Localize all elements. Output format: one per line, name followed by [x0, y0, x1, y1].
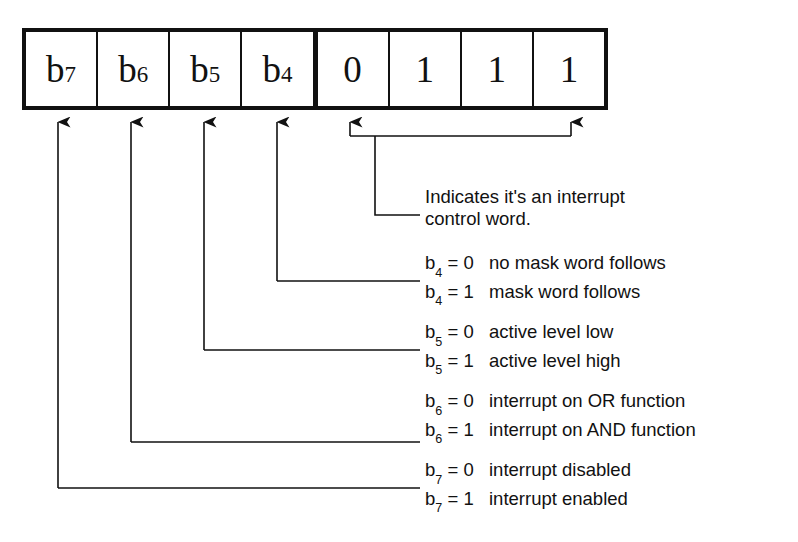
annotation-key: b7 = 0: [425, 459, 489, 488]
annotation-key: b5 = 1: [425, 350, 489, 379]
leader-identifier-stem: [375, 136, 420, 215]
bit-cell-b0: 1: [534, 32, 604, 106]
annotation-line: b4 = 0 no mask word follows: [425, 252, 666, 281]
bit-cell-b1: 1: [462, 32, 534, 106]
annotation-line: b7 = 1 interrupt enabled: [425, 488, 631, 517]
bit-cell-label: b: [190, 51, 209, 88]
annotation-desc: interrupt on AND function: [489, 419, 696, 448]
annotation-line: b6 = 1 interrupt on AND function: [425, 419, 696, 448]
bit-cell-subscript: 5: [209, 64, 220, 87]
bit-cell-b2: 1: [390, 32, 462, 106]
bit-cell-subscript: 4: [281, 64, 292, 87]
bit-cell-label: 0: [343, 51, 362, 88]
identifier-note: Indicates it's an interrupt control word…: [425, 186, 725, 230]
annotation-group-b7: b7 = 0 interrupt disabled b7 = 1 interru…: [425, 459, 631, 516]
bit-cell-b5: b5: [170, 32, 242, 106]
annotation-line: b4 = 1 mask word follows: [425, 281, 666, 310]
bit-cell-b3: 0: [318, 32, 390, 106]
bit-field-diagram: b7 b6 b5 b4 0 1 1 1 Indicates it's an in…: [0, 0, 798, 542]
bit-cell-b6: b6: [98, 32, 170, 106]
annotation-group-b4: b4 = 0 no mask word follows b4 = 1 mask …: [425, 252, 666, 309]
annotation-desc: interrupt enabled: [489, 488, 631, 517]
annotation-key: b4 = 0: [425, 252, 489, 281]
bit-cell-b7: b7: [26, 32, 98, 106]
bit-cell-label: 1: [560, 51, 579, 88]
annotation-desc: active level low: [489, 321, 621, 350]
annotation-key: b7 = 1: [425, 488, 489, 517]
annotation-key: b6 = 1: [425, 419, 489, 448]
bit-cell-b4: b4: [242, 32, 317, 106]
annotation-desc: interrupt disabled: [489, 459, 631, 488]
bit-cell-label: 1: [415, 51, 434, 88]
annotation-key: b6 = 0: [425, 390, 489, 419]
annotation-group-b6: b6 = 0 interrupt on OR function b6 = 1 i…: [425, 390, 696, 447]
annotation-line: b7 = 0 interrupt disabled: [425, 459, 631, 488]
annotation-key: b5 = 0: [425, 321, 489, 350]
annotation-line: b5 = 1 active level high: [425, 350, 621, 379]
bit-cell-label: b: [262, 51, 281, 88]
annotation-desc: mask word follows: [489, 281, 666, 310]
bit-cell-label: b: [46, 51, 65, 88]
bit-cell-label: 1: [488, 51, 507, 88]
bit-cell-subscript: 6: [137, 64, 148, 87]
annotation-key: b4 = 1: [425, 281, 489, 310]
bit-cell-subscript: 7: [65, 64, 76, 87]
annotation-group-b5: b5 = 0 active level low b5 = 1 active le…: [425, 321, 621, 378]
annotation-line: b6 = 0 interrupt on OR function: [425, 390, 696, 419]
register-box: b7 b6 b5 b4 0 1 1 1: [22, 28, 608, 110]
annotation-desc: active level high: [489, 350, 621, 379]
annotation-line: b5 = 0 active level low: [425, 321, 621, 350]
annotation-desc: no mask word follows: [489, 252, 666, 281]
bit-cell-label: b: [118, 51, 137, 88]
annotation-desc: interrupt on OR function: [489, 390, 696, 419]
